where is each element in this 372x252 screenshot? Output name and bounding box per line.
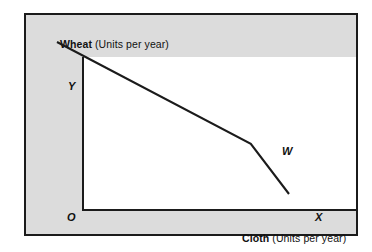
y-axis-line [82,57,84,211]
point-label-w: W [282,145,292,157]
x-axis-title-bold: Cloth [242,232,269,244]
plot-canvas [82,57,356,209]
origin-label: O [67,211,76,223]
figure-panel: Wheat (Units per year) Cloth (Units per … [24,13,358,236]
y-axis-title-regular: (Units per year) [92,38,169,50]
ppf-figure: Wheat (Units per year) Cloth (Units per … [0,0,372,252]
x-axis-title-regular: (Units per year) [269,232,346,244]
y-axis-title-bold: Wheat [60,38,92,50]
point-label-y: Y [68,80,75,92]
y-axis-title: Wheat (Units per year) [60,38,169,50]
point-label-x: X [315,211,322,223]
x-axis-title: Cloth (Units per year) [242,232,346,244]
